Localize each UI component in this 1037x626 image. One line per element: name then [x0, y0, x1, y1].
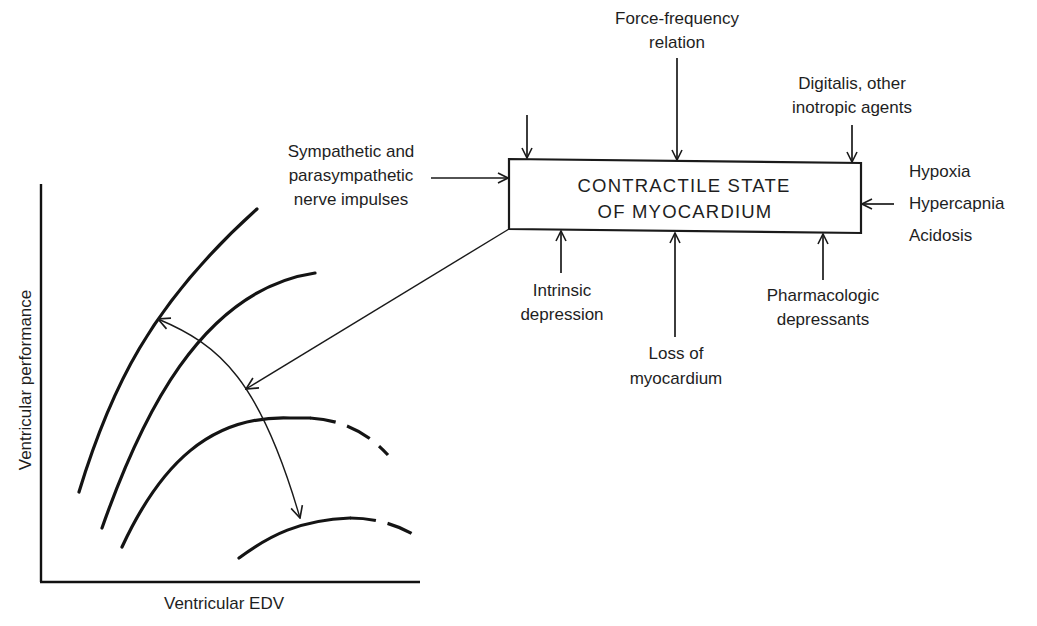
input-loss-of-myocardium: Loss of myocardium — [630, 233, 723, 388]
x-axis-label: Ventricular EDV — [164, 594, 285, 613]
input-pharmacologic: Pharmacologic depressants — [767, 234, 880, 329]
box-title-line-1: CONTRACTILE STATE — [578, 175, 791, 196]
force-frequency-line-2: relation — [649, 33, 705, 52]
intrinsic-line-2: depression — [520, 305, 603, 324]
loss-line-2: myocardium — [630, 369, 723, 388]
diagram-canvas: Ventricular EDV Ventricular performance … — [0, 0, 1037, 626]
input-sympathetic: Sympathetic and parasympathetic nerve im… — [288, 142, 508, 209]
contractile-state-box: CONTRACTILE STATE OF MYOCARDIUM — [509, 159, 861, 233]
performance-chart: Ventricular EDV Ventricular performance — [16, 184, 420, 613]
curve-3 — [122, 418, 310, 547]
sympathetic-line-1: Sympathetic and — [288, 142, 415, 161]
input-force-frequency: Force-frequency relation — [615, 9, 739, 160]
hypoxia-label: Hypoxia — [909, 162, 971, 181]
curve-3-dashed — [310, 418, 388, 455]
input-intrinsic-depression: Intrinsic depression — [520, 231, 603, 324]
curve-4 — [239, 518, 350, 558]
input-digitalis: Digitalis, other inotropic agents — [792, 74, 912, 162]
loss-line-1: Loss of — [649, 344, 704, 363]
input-hypoxia-group: Hypoxia Hypercapnia Acidosis — [862, 162, 1005, 245]
sympathetic-line-3: nerve impulses — [294, 190, 408, 209]
pharmacologic-line-2: depressants — [777, 310, 870, 329]
pharmacologic-line-1: Pharmacologic — [767, 286, 880, 305]
curve-2 — [102, 273, 315, 528]
curve-1 — [79, 209, 257, 492]
box-to-chart-connector — [246, 229, 509, 389]
force-frequency-line-1: Force-frequency — [615, 9, 739, 28]
digitalis-line-1: Digitalis, other — [798, 74, 906, 93]
y-axis-label: Ventricular performance — [16, 290, 35, 470]
box-title-line-2: OF MYOCARDIUM — [598, 201, 773, 222]
digitalis-line-2: inotropic agents — [792, 98, 912, 117]
curve-4-dashed — [350, 518, 419, 538]
acidosis-label: Acidosis — [909, 226, 972, 245]
hypercapnia-label: Hypercapnia — [909, 194, 1005, 213]
intrinsic-line-1: Intrinsic — [533, 281, 592, 300]
sympathetic-line-2: parasympathetic — [289, 166, 414, 185]
